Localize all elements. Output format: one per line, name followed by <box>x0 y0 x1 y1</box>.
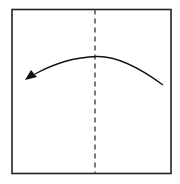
paper-square <box>12 10 171 174</box>
fold-diagram <box>0 0 180 184</box>
